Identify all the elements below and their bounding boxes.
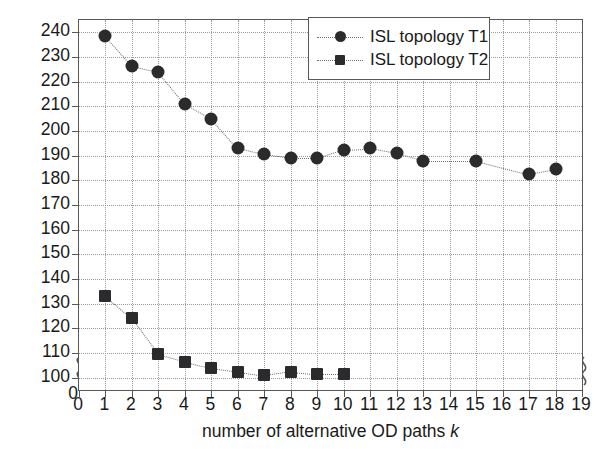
- x-tick-label: 12: [386, 396, 405, 414]
- gridline-horizontal: [79, 205, 582, 206]
- data-point-t1: [178, 97, 191, 110]
- gridline-vertical: [529, 20, 530, 390]
- y-tick-mark: [72, 279, 79, 280]
- y-tick-mark: [72, 106, 79, 107]
- gridline-horizontal: [79, 304, 582, 305]
- gridline-horizontal: [79, 254, 582, 255]
- data-point-t1: [258, 148, 271, 161]
- legend-marker-square-icon: [317, 52, 363, 68]
- x-tick-label: 6: [232, 396, 242, 414]
- y-tick-mark: [72, 304, 79, 305]
- x-tick-label: 10: [333, 396, 352, 414]
- chart-figure: WCL traffic load (mean) 0 number of alte…: [0, 0, 615, 449]
- legend-label-t2: ISL topology T2: [363, 50, 488, 70]
- gridline-horizontal: [79, 180, 582, 181]
- gridline-horizontal: [79, 131, 582, 132]
- gridline-vertical: [238, 20, 239, 390]
- gridline-horizontal: [79, 82, 582, 83]
- data-point-t1: [364, 142, 377, 155]
- gridline-vertical: [264, 20, 265, 390]
- y-tick-mark: [72, 378, 79, 379]
- gridline-horizontal: [79, 106, 582, 107]
- gridline-horizontal: [79, 230, 582, 231]
- y-tick-mark: [72, 131, 79, 132]
- y-tick-mark: [72, 82, 79, 83]
- gridline-vertical: [503, 20, 504, 390]
- gridline-vertical: [105, 20, 106, 390]
- data-point-t1: [125, 59, 138, 72]
- gridline-vertical: [185, 20, 186, 390]
- x-tick-label: 4: [179, 396, 189, 414]
- data-point-t2: [232, 366, 244, 378]
- y-tick-mark: [72, 353, 79, 354]
- series-connector-t1: [423, 161, 476, 162]
- y-tick-label: 130: [10, 294, 70, 312]
- gridline-horizontal: [79, 328, 582, 329]
- data-point-t2: [285, 366, 297, 378]
- gridline-vertical: [132, 20, 133, 390]
- legend-label-t1: ISL topology T1: [363, 27, 488, 47]
- data-point-t1: [311, 152, 324, 165]
- data-point-t2: [311, 368, 323, 380]
- data-point-t2: [99, 290, 111, 302]
- x-tick-label: 5: [205, 396, 215, 414]
- y-tick-label: 150: [10, 244, 70, 262]
- data-point-t1: [523, 168, 536, 181]
- data-point-t1: [417, 154, 430, 167]
- data-point-t1: [99, 30, 112, 43]
- x-tick-label: 2: [126, 396, 136, 414]
- y-tick-label: 240: [10, 22, 70, 40]
- x-tick-label: 15: [465, 396, 484, 414]
- data-point-t2: [126, 312, 138, 324]
- y-tick-label: 220: [10, 72, 70, 90]
- y-tick-mark: [72, 57, 79, 58]
- y-tick-label: 100: [10, 368, 70, 386]
- data-point-t2: [258, 369, 270, 381]
- x-tick-label: 13: [412, 396, 431, 414]
- data-point-t2: [152, 348, 164, 360]
- x-tick-label: 1: [100, 396, 110, 414]
- y-tick-label: 230: [10, 47, 70, 65]
- y-tick-mark: [72, 205, 79, 206]
- y-tick-label: 120: [10, 318, 70, 336]
- y-axis-zero-label: 0: [18, 383, 78, 404]
- x-tick-label: 14: [439, 396, 458, 414]
- y-tick-mark: [72, 32, 79, 33]
- data-point-t1: [231, 142, 244, 155]
- y-tick-label: 160: [10, 220, 70, 238]
- x-tick-label: 11: [360, 396, 378, 414]
- x-tick-label: 16: [492, 396, 511, 414]
- data-point-t2: [205, 362, 217, 374]
- x-axis-title-text: number of alternative OD paths: [202, 421, 450, 441]
- y-tick-label: 190: [10, 146, 70, 164]
- x-axis-title-variable: k: [450, 421, 459, 441]
- data-point-t1: [390, 147, 403, 160]
- x-tick-label: 7: [258, 396, 268, 414]
- data-point-t1: [470, 154, 483, 167]
- y-tick-mark: [72, 254, 79, 255]
- data-point-t1: [152, 65, 165, 78]
- gridline-vertical: [291, 20, 292, 390]
- y-tick-mark: [72, 328, 79, 329]
- y-tick-label: 210: [10, 96, 70, 114]
- y-tick-mark: [72, 230, 79, 231]
- x-tick-label: 17: [518, 396, 537, 414]
- x-axis-title: number of alternative OD paths k: [78, 421, 583, 442]
- data-point-t1: [284, 152, 297, 165]
- legend-item-t1: ISL topology T1: [309, 25, 489, 48]
- x-tick-label: 0: [73, 396, 83, 414]
- y-tick-label: 180: [10, 170, 70, 188]
- chart-legend: ISL topology T1 ISL topology T2: [308, 17, 490, 80]
- legend-marker-circle-icon: [317, 29, 363, 45]
- data-point-t1: [205, 112, 218, 125]
- data-point-t2: [338, 368, 350, 380]
- y-tick-mark: [72, 156, 79, 157]
- y-tick-label: 110: [10, 343, 70, 361]
- data-point-t1: [337, 143, 350, 156]
- x-tick-label: 3: [153, 396, 163, 414]
- gridline-horizontal: [79, 156, 582, 157]
- x-tick-label: 8: [285, 396, 295, 414]
- y-tick-label: 200: [10, 121, 70, 139]
- y-tick-mark: [72, 180, 79, 181]
- y-tick-label: 140: [10, 269, 70, 287]
